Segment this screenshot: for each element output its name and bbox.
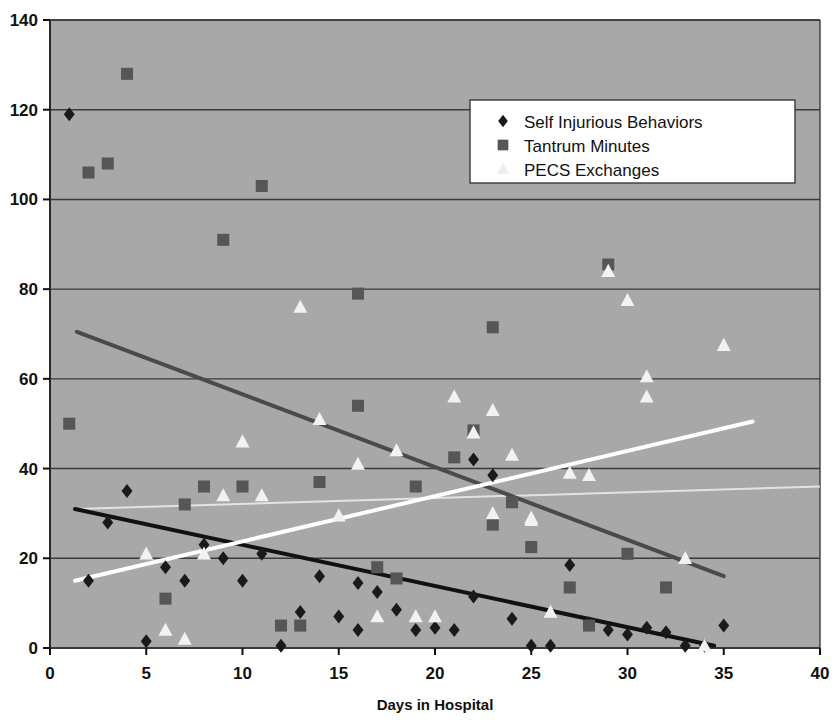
y-tick-label-140: 140 xyxy=(10,11,38,30)
legend-label-2: PECS Exchanges xyxy=(524,161,659,180)
legend-label-1: Tantrum Minutes xyxy=(524,137,650,156)
y-tick-label-80: 80 xyxy=(19,280,38,299)
x-tick-label-0: 0 xyxy=(45,664,54,683)
y-tick-label-20: 20 xyxy=(19,549,38,568)
data-point-1-6 xyxy=(198,480,210,492)
legend-item-0[interactable]: Self Injurious Behaviors xyxy=(498,113,702,132)
legend-label-0: Self Injurious Behaviors xyxy=(524,113,703,132)
data-point-1-4 xyxy=(159,593,171,605)
x-tick-label-30: 30 xyxy=(618,664,637,683)
x-tick-label-25: 25 xyxy=(522,664,541,683)
data-point-1-10 xyxy=(275,620,287,632)
legend-marker-1 xyxy=(498,140,509,151)
data-point-1-16 xyxy=(390,572,402,584)
data-point-1-12 xyxy=(313,476,325,488)
y-tick-label-40: 40 xyxy=(19,460,38,479)
data-point-1-13 xyxy=(352,288,364,300)
data-point-1-27 xyxy=(621,548,633,560)
data-point-1-24 xyxy=(564,581,576,593)
y-tick-label-60: 60 xyxy=(19,370,38,389)
data-point-1-22 xyxy=(506,496,518,508)
data-point-1-21 xyxy=(487,519,499,531)
x-tick-label-40: 40 xyxy=(811,664,830,683)
data-point-1-28 xyxy=(660,581,672,593)
data-point-1-0 xyxy=(63,418,75,430)
scatter-chart: 0204060801001201400510152025303540Days i… xyxy=(0,0,839,724)
data-point-1-2 xyxy=(102,158,114,170)
x-tick-label-20: 20 xyxy=(426,664,445,683)
data-point-1-3 xyxy=(121,68,133,80)
y-tick-label-100: 100 xyxy=(10,190,38,209)
data-point-1-14 xyxy=(352,400,364,412)
x-tick-label-35: 35 xyxy=(714,664,733,683)
data-point-1-9 xyxy=(256,180,268,192)
y-tick-label-0: 0 xyxy=(29,639,38,658)
data-point-1-11 xyxy=(294,620,306,632)
data-point-1-7 xyxy=(217,234,229,246)
data-point-1-20 xyxy=(487,321,499,333)
data-point-1-25 xyxy=(583,620,595,632)
data-point-1-5 xyxy=(179,498,191,510)
y-tick-label-120: 120 xyxy=(10,101,38,120)
data-point-1-18 xyxy=(448,451,460,463)
x-tick-label-10: 10 xyxy=(233,664,252,683)
x-tick-label-15: 15 xyxy=(329,664,348,683)
chart-canvas: 0204060801001201400510152025303540Days i… xyxy=(0,0,839,724)
x-axis-title: Days in Hospital xyxy=(377,696,494,713)
data-point-1-15 xyxy=(371,561,383,573)
x-tick-label-5: 5 xyxy=(142,664,151,683)
data-point-1-23 xyxy=(525,541,537,553)
data-point-1-8 xyxy=(236,480,248,492)
data-point-1-17 xyxy=(410,480,422,492)
data-point-1-1 xyxy=(82,166,94,178)
